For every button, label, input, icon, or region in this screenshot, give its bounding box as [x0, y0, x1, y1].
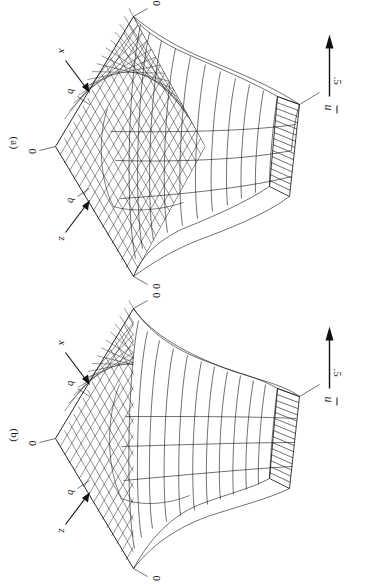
vertical-axis-leader-b — [299, 384, 319, 396]
tick-label-half-a: .5 — [331, 76, 343, 84]
zero-label-left-b: 0 — [150, 292, 162, 298]
panel-a: .5 u 0 0 0 x z b b (a) — [0, 0, 365, 292]
zero-label-right-a: 0 — [150, 283, 162, 289]
figure-root: .5 u 0 0 0 x z b b (a) — [0, 0, 365, 584]
axis-label-z-b: z — [56, 528, 68, 532]
panel-caption-a: (a) — [8, 136, 20, 149]
axis-label-ubar-a-symbol: u — [321, 104, 335, 110]
axis-label-z-a: z — [56, 236, 68, 240]
axis-arrow-x-a — [65, 60, 89, 92]
zero-label-left-a: 0 — [150, 0, 162, 6]
axis-label-ubar-b: u — [320, 396, 337, 405]
axis-arrow-ubar-a — [325, 34, 333, 96]
zero-label-bottom-b: 0 — [26, 440, 38, 446]
axis-arrow-z-b — [65, 492, 89, 524]
zero-label-right-b: 0 — [150, 575, 162, 581]
figure-page: .5 u 0 0 0 x z b b (a) — [0, 0, 365, 584]
tick-label-half-b: .5 — [331, 368, 343, 376]
axis-label-x-a: x — [56, 48, 68, 53]
panel-a-surface-plot — [0, 0, 365, 292]
base-label-b-left-b: b — [65, 380, 77, 386]
axis-arrow-z-a — [65, 200, 89, 232]
panel-b-surface-plot — [0, 292, 365, 584]
base-label-b-right-a: b — [65, 197, 77, 203]
axis-arrow-ubar-b — [325, 326, 333, 388]
zero-leader-lines-b — [39, 300, 147, 576]
base-label-b-left-a: b — [65, 88, 77, 94]
zero-label-bottom-a: 0 — [26, 148, 38, 154]
panel-b: .5 u 0 0 0 x z b b (b) — [0, 292, 365, 584]
axis-label-x-b: x — [56, 340, 68, 345]
axis-label-ubar-a: u — [320, 104, 337, 113]
vertical-axis-leader-a — [299, 92, 319, 104]
axis-label-ubar-b-symbol: u — [321, 396, 335, 402]
panel-caption-b: (b) — [8, 428, 20, 441]
base-label-b-right-b: b — [65, 489, 77, 495]
axis-arrow-x-b — [65, 352, 89, 384]
